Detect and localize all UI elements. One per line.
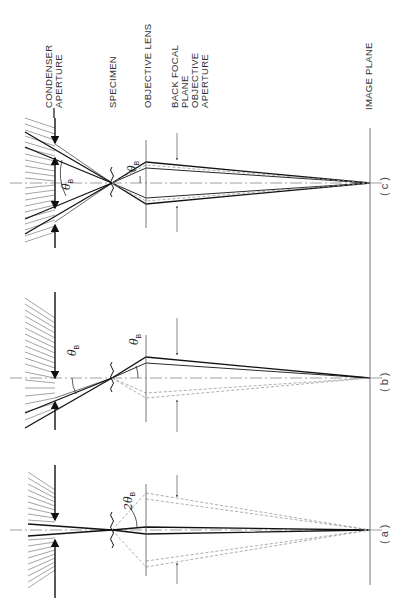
theta-symbol: θ: [60, 183, 73, 190]
theta-symbol: θ: [126, 165, 139, 172]
theta-symbol: θ: [66, 349, 79, 356]
theta-symbol: 2θ: [122, 496, 135, 510]
panel-label-c: (c): [378, 174, 390, 196]
label-line: OBJECTIVE LENS: [143, 24, 153, 108]
angle-label-c-objective: θB: [126, 161, 140, 172]
label-line: SPECIMEN: [108, 56, 118, 108]
illumination-hatch: [25, 298, 55, 420]
theta-subscript: B: [67, 179, 74, 184]
label-line: APERTURE: [54, 45, 64, 108]
angle-label-b-condenser: θB: [66, 345, 80, 356]
angle-label-b-objective: θB: [128, 334, 142, 345]
label-line: IMAGE PLANE: [364, 42, 374, 110]
label-condenser-aperture: CONDENSER APERTURE: [44, 45, 64, 108]
theta-symbol: θ: [128, 338, 141, 345]
label-specimen: SPECIMEN: [108, 56, 118, 108]
panel-label-b: (b): [378, 370, 390, 392]
theta-subscript: B: [73, 345, 80, 350]
angle-label-c-condenser: θB: [60, 179, 74, 190]
label-back-focal-plane: BACK FOCAL PLANE OBJECTIVE APERTURE: [170, 45, 210, 108]
theta-subscript: B: [133, 161, 140, 166]
label-line: APERTURE: [200, 45, 210, 108]
illumination-hatch: [25, 118, 55, 242]
theta-subscript: B: [135, 334, 142, 339]
label-image-plane: IMAGE PLANE: [364, 42, 374, 110]
panel-label-a: (a): [378, 522, 390, 544]
angle-label-a: 2θB: [122, 492, 136, 510]
panel-b: [10, 292, 385, 432]
panel-a: [10, 465, 385, 598]
label-objective-lens: OBJECTIVE LENS: [143, 24, 153, 108]
theta-subscript: B: [129, 492, 136, 497]
